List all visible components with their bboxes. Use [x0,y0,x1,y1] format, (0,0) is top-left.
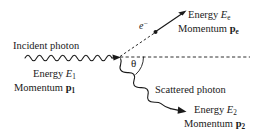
label-electron: e− [139,20,148,31]
energy-subscript-2: 2 [233,109,237,117]
momentum-word-2: Momentum [184,118,233,129]
electron-trajectory-dashed-line [120,32,156,57]
label-theta: θ [131,58,136,69]
label-energy-scattered: Energy E2 [194,104,237,115]
momentum-word-1: Momentum [14,82,63,93]
scattering-angle-arc [136,57,144,74]
momentum-subscript-e: e [235,28,238,36]
label-energy-electron: Energy Ee [188,9,230,20]
energy-word-2: Energy [194,104,224,115]
momentum-subscript-1: 1 [71,87,75,95]
compton-scattering-diagram: Incident photon Energy E1 Momentum p1 e−… [0,0,262,138]
label-momentum-electron: Momentum pe [178,23,239,34]
label-scattered-photon: Scattered photon [155,84,226,95]
incident-photon-wave [25,54,121,60]
label-momentum-scattered: Momentum p2 [184,118,245,129]
momentum-subscript-2: 2 [241,123,245,131]
label-momentum-incident: Momentum p1 [14,82,75,93]
energy-subscript-e: e [227,14,230,22]
energy-subscript-1: 1 [72,73,76,81]
electron-charge-superscript: − [143,20,147,28]
energy-word-1: Energy [33,68,63,79]
momentum-word-e: Momentum [178,23,227,34]
energy-word-e: Energy [188,9,218,20]
label-energy-incident: Energy E1 [33,68,76,79]
label-incident-photon: Incident photon [13,40,79,51]
